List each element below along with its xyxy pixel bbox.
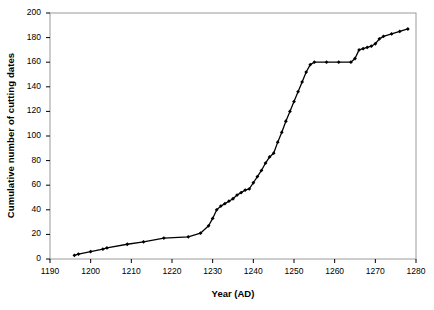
y-axis-tick-label: 160 [17, 57, 41, 66]
data-point-marker [361, 47, 365, 51]
data-point-marker [406, 27, 410, 31]
data-line [74, 29, 407, 255]
data-point-marker [142, 240, 146, 244]
x-axis-tick-label: 1190 [30, 267, 70, 276]
data-point-marker [296, 90, 300, 94]
y-axis-tick-label: 120 [17, 106, 41, 115]
data-point-marker [337, 60, 341, 64]
y-axis-tick-label: 80 [17, 156, 41, 165]
y-axis-tick-label: 200 [17, 8, 41, 17]
x-axis-tick-label: 1270 [355, 267, 395, 276]
data-point-marker [186, 235, 190, 239]
data-point-marker [390, 32, 394, 36]
data-point-marker [365, 46, 369, 50]
data-point-marker [292, 100, 296, 104]
y-axis-tick-label: 100 [17, 131, 41, 140]
data-point-marker [125, 242, 129, 246]
data-point-marker [89, 250, 93, 254]
y-axis-tick-label: 60 [17, 180, 41, 189]
x-axis-tick-label: 1280 [396, 267, 434, 276]
data-point-marker [398, 30, 402, 34]
y-axis-tick-label: 0 [17, 254, 41, 263]
data-point-marker [276, 140, 280, 144]
y-axis-tick-label: 40 [17, 205, 41, 214]
plot-area [0, 0, 434, 310]
y-axis-tick-label: 140 [17, 82, 41, 91]
data-point-marker [300, 80, 304, 84]
data-point-marker [162, 236, 166, 240]
data-point-marker [101, 247, 105, 251]
data-point-marker [284, 119, 288, 123]
x-axis-tick-label: 1210 [111, 267, 151, 276]
data-point-marker [288, 110, 292, 114]
x-axis-tick-label: 1260 [315, 267, 355, 276]
data-point-marker [280, 130, 284, 134]
data-point-marker [325, 60, 329, 64]
chart-figure: Cumulative number of cutting dates Year … [0, 0, 434, 310]
data-point-marker [73, 253, 77, 257]
x-axis-tick-label: 1220 [152, 267, 192, 276]
y-axis-tick-label: 20 [17, 229, 41, 238]
y-axis-tick-label: 180 [17, 33, 41, 42]
x-axis-tick-label: 1230 [193, 267, 233, 276]
x-axis-tick-label: 1250 [274, 267, 314, 276]
x-axis-tick-label: 1200 [71, 267, 111, 276]
data-point-marker [105, 246, 109, 250]
x-axis-tick-label: 1240 [233, 267, 273, 276]
data-point-marker [77, 252, 81, 256]
